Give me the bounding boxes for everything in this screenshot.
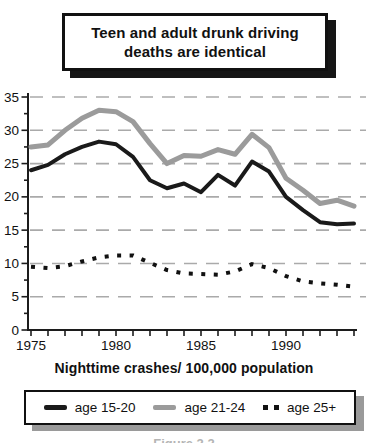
chart-title-box: Teen and adult drunk driving deaths are …	[62, 13, 328, 71]
legend-item-age-25-plus: age 25+	[263, 400, 336, 415]
legend-item-age-21-24: age 21-24	[153, 400, 245, 415]
series-line-age-25-	[31, 255, 354, 286]
partial-figure-caption: Figure 2.2	[0, 437, 368, 443]
svg-text:5: 5	[11, 289, 19, 304]
svg-text:0: 0	[11, 323, 19, 338]
chart-figure: Teen and adult drunk driving deaths are …	[0, 0, 368, 443]
svg-text:25: 25	[4, 156, 19, 171]
x-axis-labels: 1975198019851990	[16, 338, 301, 353]
svg-text:1980: 1980	[101, 338, 131, 353]
svg-text:15: 15	[4, 223, 19, 238]
svg-text:20: 20	[4, 189, 19, 204]
y-axis-labels: 05101520253035	[4, 90, 19, 338]
svg-text:1985: 1985	[186, 338, 216, 353]
svg-text:10: 10	[4, 256, 19, 271]
solid-gray-line-swatch-icon	[153, 405, 176, 410]
legend-item-age-15-20: age 15-20	[44, 400, 136, 415]
plot-area: 051015202530351975198019851990	[0, 85, 368, 357]
chart-title: Teen and adult drunk driving deaths are …	[65, 23, 325, 62]
series-line-age-21-24	[31, 110, 354, 206]
legend-label: age 25+	[287, 400, 336, 415]
svg-text:1975: 1975	[16, 338, 46, 353]
legend-label: age 15-20	[75, 400, 136, 415]
x-axis-title: Nighttime crashes/ 100,000 population	[0, 360, 368, 376]
legend: age 15-20 age 21-24 age 25+	[24, 390, 356, 425]
svg-text:35: 35	[4, 90, 19, 105]
chart-svg: 051015202530351975198019851990	[0, 85, 368, 357]
dotted-black-line-swatch-icon	[263, 405, 279, 410]
svg-text:1990: 1990	[271, 338, 301, 353]
svg-text:30: 30	[4, 123, 19, 138]
gridlines	[30, 97, 366, 297]
solid-black-line-swatch-icon	[44, 405, 67, 410]
legend-label: age 21-24	[184, 400, 245, 415]
